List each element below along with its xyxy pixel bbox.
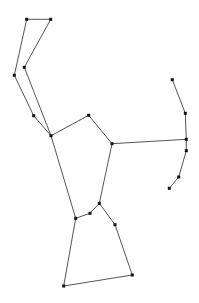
constellation-line: [76, 213, 90, 218]
constellation-line: [115, 225, 132, 275]
constellation-canvas: [0, 0, 199, 303]
constellation-line: [89, 115, 112, 143]
star-point: [98, 202, 101, 205]
star-point: [168, 187, 171, 190]
constellation-line: [99, 203, 115, 224]
star-point: [13, 74, 16, 77]
constellation-line: [24, 67, 51, 135]
star-point: [177, 176, 180, 179]
star-point: [25, 18, 28, 21]
star-point: [49, 18, 52, 21]
constellation-line: [64, 218, 76, 286]
star-point: [32, 114, 35, 117]
star-point: [114, 223, 117, 226]
constellation-line: [51, 136, 76, 219]
star-point: [111, 142, 114, 145]
star-point: [131, 274, 134, 277]
constellation-line: [34, 116, 51, 136]
constellation-line: [112, 139, 186, 143]
constellation-line: [172, 80, 185, 114]
constellation-line: [51, 115, 89, 135]
constellation-line: [99, 144, 112, 204]
constellation-line: [64, 275, 133, 286]
constellation-diagram: [0, 0, 199, 303]
star-point: [171, 78, 174, 81]
constellation-stars: [13, 18, 188, 288]
star-point: [50, 134, 53, 137]
star-point: [185, 149, 188, 152]
constellation-line: [24, 19, 50, 67]
star-point: [185, 138, 188, 141]
constellation-line: [179, 151, 187, 177]
constellation-line: [185, 113, 186, 139]
star-point: [87, 114, 90, 117]
constellation-line: [14, 75, 33, 115]
constellation-lines: [14, 19, 186, 286]
star-point: [89, 212, 92, 215]
star-point: [23, 66, 26, 69]
star-point: [74, 217, 77, 220]
constellation-line: [169, 177, 178, 188]
star-point: [62, 285, 65, 288]
star-point: [184, 112, 187, 115]
